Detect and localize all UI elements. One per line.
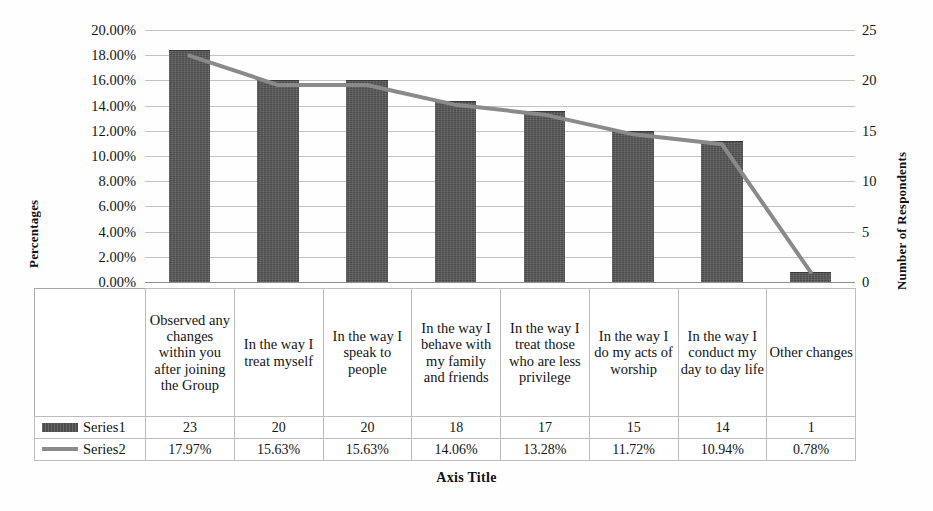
left-tick-label: 18.00% xyxy=(91,48,136,63)
right-tick-label: 5 xyxy=(862,224,869,239)
table-cell-value: 11.72% xyxy=(589,439,678,461)
table-cell-category: In the way I treat myself xyxy=(234,289,323,417)
right-tick-label: 20 xyxy=(862,73,877,88)
table-cell-value: 13.28% xyxy=(501,439,590,461)
right-axis-tick-labels: 0510152025 xyxy=(862,30,896,282)
table-cell-value: 14 xyxy=(678,417,767,439)
table-legend-cell: Series2 xyxy=(35,439,146,461)
left-tick-label: 8.00% xyxy=(99,174,136,189)
left-tick-label: 20.00% xyxy=(91,23,136,38)
table-cell-value: 14.06% xyxy=(412,439,501,461)
legend-label: Series2 xyxy=(83,441,126,457)
table-cell-value: 10.94% xyxy=(678,439,767,461)
table-cell-value: 1 xyxy=(767,417,856,439)
table-cell-value: 17.97% xyxy=(146,439,235,461)
right-tick-label: 15 xyxy=(862,124,877,139)
table-cell-category: In the way I behave with my family and f… xyxy=(412,289,501,417)
table-cell-value: 18 xyxy=(412,417,501,439)
bar-swatch-icon xyxy=(42,423,78,432)
table-cell-value: 20 xyxy=(323,417,412,439)
left-tick-label: 2.00% xyxy=(99,250,136,265)
line-series-series2 xyxy=(145,30,855,282)
legend-label: Series1 xyxy=(83,419,126,435)
table-row-series1: Series1232020181715141 xyxy=(35,417,856,439)
left-axis-title: Percentages xyxy=(26,108,42,268)
right-axis-title: Number of Respondents xyxy=(894,55,910,290)
table-legend-cell: Series1 xyxy=(35,417,146,439)
axis-baseline xyxy=(145,282,855,283)
left-tick-label: 12.00% xyxy=(91,124,136,139)
plot-area xyxy=(145,30,855,282)
table-cell-value: 23 xyxy=(146,417,235,439)
right-tick-label: 25 xyxy=(862,23,877,38)
table-cell-category: Observed any changes within you after jo… xyxy=(146,289,235,417)
left-tick-label: 6.00% xyxy=(99,199,136,214)
table-cell-category: In the way I conduct my day to day life xyxy=(678,289,767,417)
chart-figure: Percentages Number of Respondents 0.00%2… xyxy=(0,0,933,511)
table-row-series2: Series217.97%15.63%15.63%14.06%13.28%11.… xyxy=(35,439,856,461)
table-row-categories: Observed any changes within you after jo… xyxy=(35,289,856,417)
table-cell-value: 15 xyxy=(589,417,678,439)
right-tick-label: 10 xyxy=(862,174,877,189)
left-tick-label: 4.00% xyxy=(99,224,136,239)
x-axis-title: Axis Title xyxy=(0,470,933,486)
table-cell-value: 15.63% xyxy=(323,439,412,461)
table-legend-spacer xyxy=(35,289,146,417)
left-tick-label: 10.00% xyxy=(91,149,136,164)
table-cell-value: 0.78% xyxy=(767,439,856,461)
table-cell-category: In the way I treat those who are less pr… xyxy=(501,289,590,417)
table-cell-value: 15.63% xyxy=(234,439,323,461)
line-swatch-icon xyxy=(42,447,78,451)
left-tick-label: 14.00% xyxy=(91,98,136,113)
left-tick-label: 16.00% xyxy=(91,73,136,88)
table-cell-category: In the way I speak to people xyxy=(323,289,412,417)
table-cell-category: Other changes xyxy=(767,289,856,417)
table-cell-category: In the way I do my acts of worship xyxy=(589,289,678,417)
table-cell-value: 20 xyxy=(234,417,323,439)
left-axis-tick-labels: 0.00%2.00%4.00%6.00%8.00%10.00%12.00%14.… xyxy=(58,30,136,282)
table-cell-value: 17 xyxy=(501,417,590,439)
chart-data-table: Observed any changes within you after jo… xyxy=(34,288,856,461)
right-tick-label: 0 xyxy=(862,275,869,290)
